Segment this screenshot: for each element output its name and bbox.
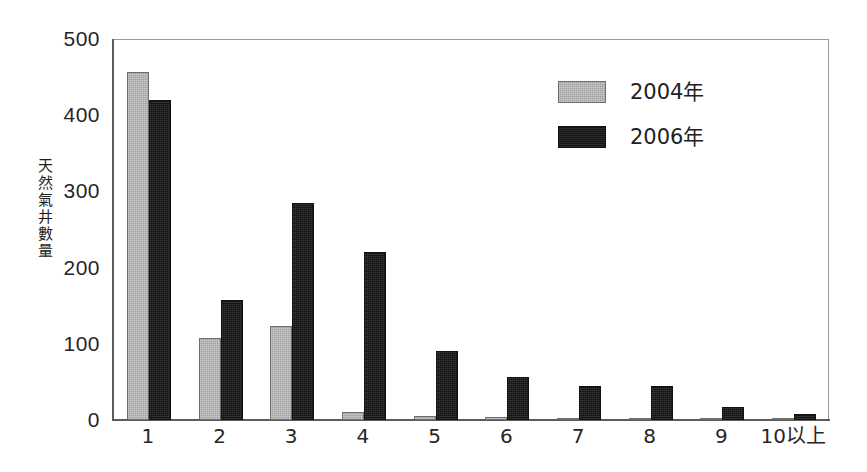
bar-2006-6[interactable] (507, 377, 529, 420)
legend-swatch (558, 81, 606, 103)
bar-group (270, 39, 314, 420)
bar-2006-10以上[interactable] (794, 414, 816, 420)
y-tick-label: 0 (44, 409, 100, 430)
bar-2006-2[interactable] (221, 300, 243, 420)
bar-2004-9[interactable] (700, 418, 722, 420)
x-tick-label: 10以上 (747, 424, 839, 448)
bar-2004-10以上[interactable] (772, 418, 794, 420)
bar-2004-6[interactable] (485, 417, 507, 420)
bar-group (199, 39, 243, 420)
bar-2004-3[interactable] (270, 326, 292, 420)
bar-group (342, 39, 386, 420)
legend-item-2006[interactable]: 2006年 (558, 121, 758, 153)
legend-swatch (558, 126, 606, 148)
bar-2006-8[interactable] (651, 386, 673, 420)
bar-group (772, 39, 816, 420)
legend-label: 2004年 (630, 80, 704, 104)
bar-2006-3[interactable] (292, 203, 314, 420)
bar-group (485, 39, 529, 420)
y-tick-label: 200 (44, 257, 100, 278)
chart-figure: 天然氣井數量 0100200300400500 12345678910以上 20… (0, 0, 867, 472)
bar-2004-2[interactable] (199, 338, 221, 420)
bar-2006-7[interactable] (579, 386, 601, 420)
x-axis-tick-labels: 12345678910以上 (112, 424, 829, 458)
y-axis-tick-labels: 0100200300400500 (40, 0, 100, 472)
bar-2006-4[interactable] (364, 252, 386, 420)
bar-2004-4[interactable] (342, 412, 364, 420)
bar-group (127, 39, 171, 420)
legend-label: 2006年 (630, 125, 704, 149)
bar-2004-1[interactable] (127, 72, 149, 420)
bar-2006-1[interactable] (149, 100, 171, 420)
bar-2006-9[interactable] (722, 407, 744, 420)
chart-legend: 2004年2006年 (558, 76, 758, 166)
y-tick-label: 500 (44, 28, 100, 49)
bar-2004-8[interactable] (629, 418, 651, 420)
y-tick-label: 400 (44, 104, 100, 125)
y-tick-label: 300 (44, 180, 100, 201)
bar-2004-5[interactable] (414, 416, 436, 420)
bar-group (414, 39, 458, 420)
legend-item-2004[interactable]: 2004年 (558, 76, 758, 108)
y-tick-label: 100 (44, 333, 100, 354)
bar-2006-5[interactable] (436, 351, 458, 420)
bar-2004-7[interactable] (557, 418, 579, 420)
